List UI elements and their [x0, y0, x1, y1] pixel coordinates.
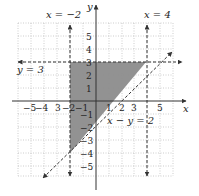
y-tick: 1: [86, 84, 92, 94]
x-tick: 3: [55, 103, 61, 113]
x-tick: 3: [131, 103, 137, 113]
y-tick: −2: [80, 123, 93, 133]
y-tick: −1: [80, 110, 93, 120]
inequality-graph: x y x = −2 x = 4 y = 3 x − y = 2 −5 −4 3…: [0, 0, 199, 196]
y-tick: 5: [86, 32, 92, 42]
x-tick: 1: [106, 103, 112, 113]
label-y-3: y = 3: [16, 64, 44, 75]
x-tick: 5: [157, 103, 163, 113]
label-x-neg2: x = −2: [46, 9, 81, 20]
y-tick: 4: [86, 45, 92, 55]
label-x-minus-y-2: x − y = 2: [107, 115, 154, 126]
y-tick: 2: [86, 71, 92, 81]
y-axis-label: y: [86, 1, 93, 12]
x-tick: 2: [119, 103, 125, 113]
x-tick: −4: [35, 103, 49, 113]
y-tick: −4: [80, 149, 94, 159]
label-x-4: x = 4: [144, 9, 171, 20]
y-tick: 3: [86, 58, 92, 68]
x-tick: −2: [62, 103, 75, 113]
y-tick: −5: [80, 162, 94, 172]
x-axis-label: x: [183, 103, 189, 114]
y-tick: −3: [80, 136, 94, 146]
